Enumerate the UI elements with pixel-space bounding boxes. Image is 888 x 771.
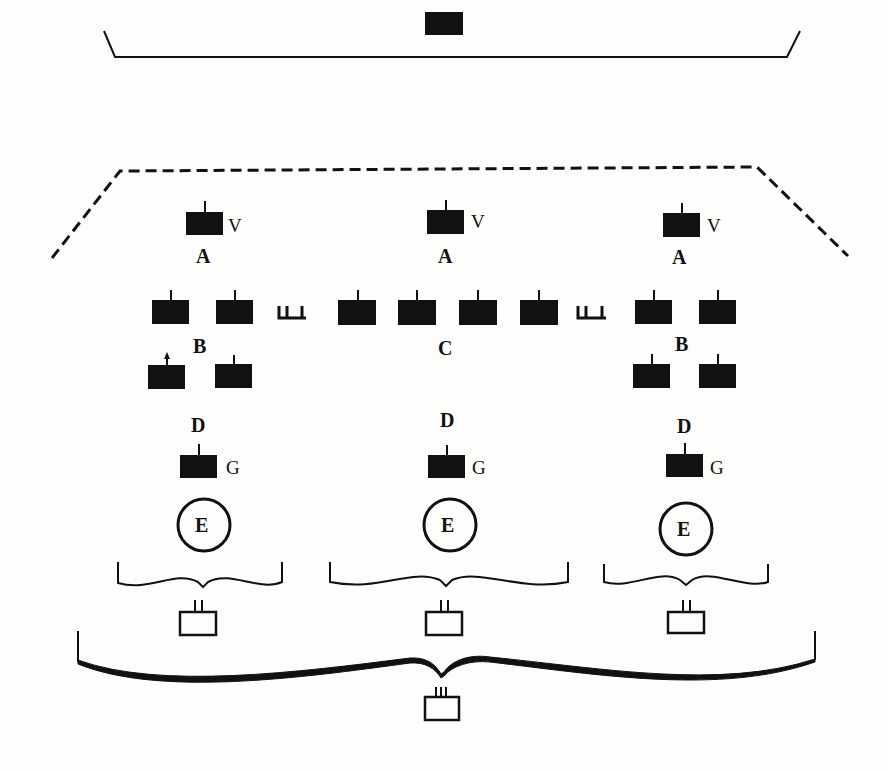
- base-box-large-icon: [425, 697, 459, 720]
- label-a: A: [672, 246, 687, 268]
- column-brace: [604, 564, 768, 585]
- bottom-level: [78, 631, 815, 720]
- unit-b-icon: [216, 300, 253, 324]
- label-c: C: [438, 337, 452, 359]
- label-e: E: [441, 514, 454, 536]
- label-e: E: [195, 514, 208, 536]
- label-d: D: [677, 415, 691, 437]
- unit-c-icon: [520, 300, 558, 325]
- unit-b-icon: [633, 364, 670, 388]
- unit-a-icon: [427, 210, 464, 234]
- top-unit-icon: [425, 12, 463, 35]
- unit-b-icon: [215, 364, 252, 388]
- unit-c-icon: [459, 300, 497, 325]
- label-b: B: [675, 333, 688, 355]
- label-b: B: [193, 335, 206, 357]
- label-a: A: [196, 245, 211, 267]
- unit-d-icon: [180, 455, 217, 478]
- unit-b-icon: [152, 300, 189, 324]
- label-e: E: [677, 518, 690, 540]
- label-a: A: [438, 245, 453, 267]
- column-brace: [330, 562, 568, 586]
- unit-c-icon: [338, 300, 376, 325]
- unit-b-icon: [699, 364, 736, 388]
- label-d: D: [440, 409, 454, 431]
- label-g: G: [710, 457, 724, 478]
- column-right: V A B D G E: [604, 203, 768, 633]
- base-box-icon: [180, 612, 216, 635]
- large-brace: [78, 656, 815, 682]
- unit-d-icon: [666, 454, 703, 477]
- unit-d-icon: [428, 455, 465, 478]
- unit-b-icon: [635, 300, 672, 324]
- column-left: V A B D G E: [118, 201, 306, 635]
- unit-a-icon: [186, 212, 223, 235]
- column-center: V A C D G E: [330, 200, 606, 635]
- label-g: G: [226, 457, 240, 478]
- label-v: V: [707, 215, 721, 236]
- top-level: [104, 12, 800, 57]
- label-d: D: [191, 414, 205, 436]
- organization-diagram: V A B D G E V A: [0, 0, 888, 771]
- label-v: V: [471, 211, 485, 232]
- column-brace: [118, 562, 282, 587]
- weapon-symbol-icon: [578, 306, 606, 318]
- weapon-symbol-icon: [279, 306, 306, 318]
- label-g: G: [472, 457, 486, 478]
- unit-b-icon: [148, 365, 185, 389]
- base-box-icon: [426, 612, 462, 635]
- unit-b-icon: [699, 300, 736, 324]
- unit-c-icon: [398, 300, 436, 325]
- base-box-icon: [668, 612, 704, 633]
- label-v: V: [228, 215, 242, 236]
- unit-a-icon: [663, 213, 700, 237]
